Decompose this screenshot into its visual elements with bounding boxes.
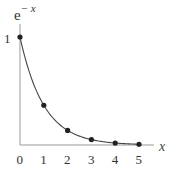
data-point xyxy=(89,137,94,142)
y-tick-label: 1 xyxy=(4,31,11,47)
x-tick-label: 1 xyxy=(40,153,47,166)
data-point xyxy=(41,103,46,108)
x-tick-label: 3 xyxy=(88,153,95,166)
chart-title: e− x xyxy=(14,4,36,24)
exponential-decay-chart xyxy=(0,0,175,174)
x-tick-label: 5 xyxy=(136,153,143,166)
x-tick-label: 4 xyxy=(112,153,119,166)
x-tick-label: 2 xyxy=(64,153,71,166)
data-point xyxy=(136,142,141,147)
data-point xyxy=(113,140,118,145)
data-point xyxy=(65,128,70,133)
decay-curve xyxy=(20,37,139,144)
x-tick-label: 0 xyxy=(17,153,24,166)
data-point xyxy=(17,34,22,39)
x-axis-label: x xyxy=(159,139,165,155)
